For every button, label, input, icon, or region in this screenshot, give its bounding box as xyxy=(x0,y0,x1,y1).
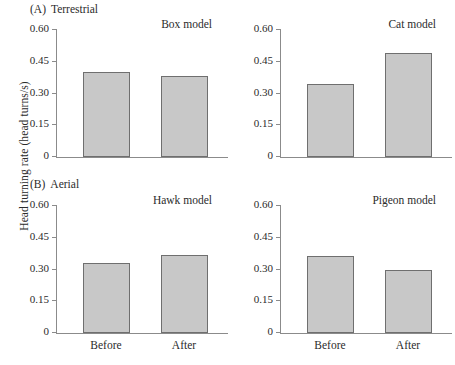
bars-group xyxy=(57,206,212,333)
chart-box-model: Box model 0.600.450.300.150 xyxy=(18,22,214,174)
bars-group xyxy=(281,206,436,333)
y-tick-label: 0.15 xyxy=(254,293,273,305)
y-tick: 0.15 xyxy=(52,124,57,125)
y-tick-label: 0.60 xyxy=(30,22,49,34)
plot-area: 0.600.450.300.150 xyxy=(56,30,212,158)
bars-group xyxy=(57,30,212,157)
x-tick-label-before: Before xyxy=(295,339,365,351)
y-tick: 0.15 xyxy=(276,124,281,125)
chart-hawk-model: Hawk model Before After 0.600.450.300.15… xyxy=(18,198,214,350)
y-tick: 0 xyxy=(276,156,281,157)
chart-title: Box model xyxy=(161,18,212,30)
y-tick: 0.45 xyxy=(276,61,281,62)
y-tick: 0.45 xyxy=(276,237,281,238)
y-tick-label: 0.45 xyxy=(254,230,273,242)
y-tick-label: 0.15 xyxy=(254,117,273,129)
y-tick: 0.60 xyxy=(276,29,281,30)
y-tick: 0.30 xyxy=(276,269,281,270)
y-tick-label: 0 xyxy=(268,149,274,161)
x-tick-label-after: After xyxy=(373,339,443,351)
section-tag: (A) xyxy=(30,3,46,15)
bar-after xyxy=(385,53,432,157)
y-tick-label: 0.15 xyxy=(30,293,49,305)
y-tick-label: 0.15 xyxy=(30,117,49,129)
y-tick-label: 0.45 xyxy=(30,54,49,66)
bar-before xyxy=(83,72,130,157)
y-tick: 0.30 xyxy=(52,93,57,94)
bar-after xyxy=(161,76,208,157)
chart-pigeon-model: Pigeon model Before After 0.600.450.300.… xyxy=(242,198,438,350)
section-name: Terrestrial xyxy=(51,3,98,15)
y-tick-label: 0.60 xyxy=(30,198,49,210)
axis-baseline-extension xyxy=(436,333,452,334)
y-tick-label: 0.60 xyxy=(254,198,273,210)
section-label-aerial: (B)Aerial xyxy=(30,178,79,190)
y-tick-label: 0.45 xyxy=(30,230,49,242)
plot-area: Before After 0.600.450.300.150 xyxy=(280,206,436,334)
bar-before xyxy=(83,263,130,333)
y-tick: 0.60 xyxy=(52,205,57,206)
y-tick: 0.45 xyxy=(52,237,57,238)
y-tick-label: 0.45 xyxy=(254,54,273,66)
plot-area: 0.600.450.300.150 xyxy=(280,30,436,158)
chart-title: Hawk model xyxy=(153,194,212,206)
y-tick-label: 0.30 xyxy=(254,262,273,274)
chart-title: Pigeon model xyxy=(372,194,436,206)
axis-baseline-extension xyxy=(436,157,452,158)
y-tick-label: 0 xyxy=(44,325,50,337)
chart-title: Cat model xyxy=(388,18,436,30)
y-tick: 0.15 xyxy=(276,300,281,301)
y-tick: 0 xyxy=(52,156,57,157)
y-tick: 0.30 xyxy=(52,269,57,270)
x-tick-label-before: Before xyxy=(71,339,141,351)
y-tick: 0 xyxy=(276,332,281,333)
section-name: Aerial xyxy=(50,178,79,190)
y-tick: 0.45 xyxy=(52,61,57,62)
y-tick: 0.15 xyxy=(52,300,57,301)
section-tag: (B) xyxy=(30,178,45,190)
y-tick-label: 0 xyxy=(44,149,50,161)
y-tick-label: 0.30 xyxy=(30,262,49,274)
y-tick: 0.30 xyxy=(276,93,281,94)
y-tick: 0.60 xyxy=(52,29,57,30)
axis-baseline-extension xyxy=(212,157,228,158)
y-tick-label: 0.30 xyxy=(254,86,273,98)
chart-cat-model: Cat model 0.600.450.300.150 xyxy=(242,22,438,174)
plot-area: Before After 0.600.450.300.150 xyxy=(56,206,212,334)
axis-baseline-extension xyxy=(212,333,228,334)
bar-before xyxy=(307,256,354,333)
bar-before xyxy=(307,84,354,157)
x-tick-label-after: After xyxy=(149,339,219,351)
y-tick-label: 0.30 xyxy=(30,86,49,98)
y-tick: 0.60 xyxy=(276,205,281,206)
y-tick-label: 0.60 xyxy=(254,22,273,34)
section-label-terrestrial: (A)Terrestrial xyxy=(30,3,98,15)
bar-after xyxy=(385,270,432,334)
bar-after xyxy=(161,255,208,333)
y-tick: 0 xyxy=(52,332,57,333)
bars-group xyxy=(281,30,436,157)
y-tick-label: 0 xyxy=(268,325,274,337)
